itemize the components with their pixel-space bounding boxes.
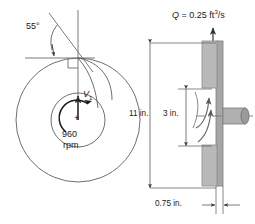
lower-shroud-block: [202, 145, 217, 186]
upper-shroud-block: [202, 41, 217, 88]
speed-unit-label: rpm: [63, 141, 79, 150]
figure-artwork: [0, 0, 255, 224]
dimension-11in-label: 11 in.: [129, 110, 148, 118]
streamline-lower: [198, 110, 211, 142]
speed-value-label: 960: [62, 130, 77, 139]
flow-symbol: Q: [172, 10, 179, 20]
blade-angle-line: [49, 13, 93, 72]
side-view-group: [150, 28, 253, 214]
blade-angle-label: 55°: [26, 22, 40, 31]
angle-arc-pointer: [52, 44, 54, 56]
right-angle-marker: [68, 58, 78, 68]
pump-impeller-figure: 55° V1 960 rpm Q = 0.25 ft3/s 11 in. 3 i…: [0, 0, 255, 224]
dimension-3in-label: 3 in.: [163, 110, 178, 118]
front-view-group: [16, 10, 140, 182]
flow-equals: =: [182, 10, 187, 20]
flow-rate-label: Q = 0.25 ft3/s: [172, 9, 225, 20]
dimension-075in-label: 0.75 in.: [155, 200, 182, 208]
velocity-label: V1: [83, 90, 92, 101]
shaft-end-cap: [241, 108, 249, 124]
angle-arc: [51, 25, 57, 50]
velocity-subscript: 1: [89, 95, 92, 101]
flow-value: 0.25: [189, 10, 207, 20]
streamline-edge: [193, 92, 198, 128]
flow-unit-denominator: /s: [218, 10, 225, 20]
center-mark: +: [74, 114, 79, 123]
